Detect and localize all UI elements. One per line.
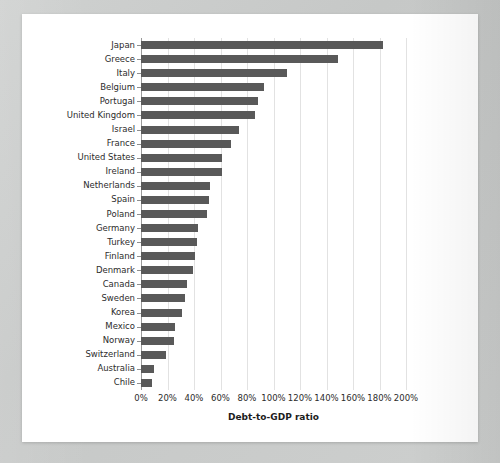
y-tick-label: Italy bbox=[117, 69, 135, 78]
bar bbox=[141, 323, 175, 331]
screenshot-page: JapanGreeceItalyBelgiumPortugalUnited Ki… bbox=[0, 0, 500, 463]
bar-chart-plot-area: JapanGreeceItalyBelgiumPortugalUnited Ki… bbox=[141, 38, 406, 390]
y-tick-label: Chile bbox=[114, 378, 135, 387]
bar bbox=[141, 210, 207, 218]
y-tick-label: Germany bbox=[96, 224, 135, 233]
bar bbox=[141, 126, 239, 134]
y-tick-label: Greece bbox=[105, 55, 135, 64]
y-tick-label: Korea bbox=[111, 308, 135, 317]
y-axis-tick bbox=[137, 270, 141, 271]
bar bbox=[141, 252, 195, 260]
bar bbox=[141, 224, 198, 232]
y-tick-label: Norway bbox=[103, 336, 135, 345]
y-axis-tick bbox=[137, 101, 141, 102]
bar bbox=[141, 238, 197, 246]
y-tick-label: Portugal bbox=[100, 97, 135, 106]
x-tick-label: 200% bbox=[386, 394, 426, 403]
chart-card: JapanGreeceItalyBelgiumPortugalUnited Ki… bbox=[22, 14, 478, 442]
y-axis-tick bbox=[137, 228, 141, 229]
bar bbox=[141, 365, 154, 373]
y-axis-tick bbox=[137, 298, 141, 299]
bar bbox=[141, 111, 255, 119]
y-tick-label: Ireland bbox=[106, 167, 135, 176]
gridline bbox=[406, 38, 407, 390]
bar bbox=[141, 280, 187, 288]
gridline bbox=[327, 38, 328, 390]
bar bbox=[141, 351, 166, 359]
y-axis-tick bbox=[137, 115, 141, 116]
y-tick-label: Switzerland bbox=[85, 350, 135, 359]
y-axis-tick bbox=[137, 369, 141, 370]
y-tick-label: Sweden bbox=[101, 294, 135, 303]
y-axis-tick bbox=[137, 327, 141, 328]
bar bbox=[141, 168, 222, 176]
y-tick-label: Australia bbox=[97, 364, 135, 373]
y-tick-label: Turkey bbox=[107, 238, 135, 247]
y-axis-tick bbox=[137, 158, 141, 159]
y-axis-tick bbox=[137, 284, 141, 285]
y-tick-label: Israel bbox=[112, 125, 135, 134]
y-tick-label: Japan bbox=[111, 41, 135, 50]
gridline bbox=[353, 38, 354, 390]
y-axis-tick bbox=[137, 172, 141, 173]
bar bbox=[141, 140, 231, 148]
y-axis-tick bbox=[137, 214, 141, 215]
bar bbox=[141, 294, 185, 302]
y-tick-label: France bbox=[107, 139, 135, 148]
y-axis-category-labels: JapanGreeceItalyBelgiumPortugalUnited Ki… bbox=[17, 38, 135, 390]
y-tick-label: Spain bbox=[111, 195, 135, 204]
y-axis-tick bbox=[137, 200, 141, 201]
bar bbox=[141, 266, 193, 274]
y-axis-tick bbox=[137, 242, 141, 243]
y-axis-tick bbox=[137, 144, 141, 145]
y-axis-tick bbox=[137, 45, 141, 46]
y-tick-label: United States bbox=[77, 153, 135, 162]
bar bbox=[141, 379, 152, 387]
y-axis-tick bbox=[137, 313, 141, 314]
y-axis-tick bbox=[137, 186, 141, 187]
y-tick-label: United Kingdom bbox=[67, 111, 135, 120]
bar bbox=[141, 337, 174, 345]
bar bbox=[141, 41, 383, 49]
x-axis-title: Debt-to-GDP ratio bbox=[141, 412, 406, 422]
y-tick-label: Mexico bbox=[105, 322, 135, 331]
bar bbox=[141, 182, 210, 190]
y-tick-label: Netherlands bbox=[83, 181, 135, 190]
gridline bbox=[380, 38, 381, 390]
y-axis-tick bbox=[137, 73, 141, 74]
gridline bbox=[274, 38, 275, 390]
y-tick-label: Belgium bbox=[100, 83, 135, 92]
y-tick-label: Denmark bbox=[96, 266, 135, 275]
y-axis-tick bbox=[137, 256, 141, 257]
y-axis-tick bbox=[137, 59, 141, 60]
y-tick-label: Canada bbox=[103, 280, 135, 289]
gridline bbox=[300, 38, 301, 390]
y-tick-label: Poland bbox=[107, 210, 135, 219]
y-axis-tick bbox=[137, 383, 141, 384]
y-axis-tick bbox=[137, 130, 141, 131]
bar bbox=[141, 55, 338, 63]
y-tick-label: Finland bbox=[105, 252, 135, 261]
bar bbox=[141, 69, 287, 77]
y-axis-tick bbox=[137, 341, 141, 342]
bar bbox=[141, 83, 264, 91]
y-axis-tick bbox=[137, 87, 141, 88]
y-axis-tick bbox=[137, 355, 141, 356]
bar bbox=[141, 154, 222, 162]
bar bbox=[141, 97, 258, 105]
bar bbox=[141, 309, 182, 317]
bar bbox=[141, 196, 209, 204]
